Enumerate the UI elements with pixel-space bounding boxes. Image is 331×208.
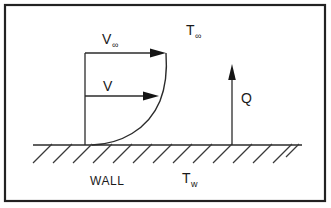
- velocity-profile-curve: [92, 53, 166, 145]
- local-velocity-vector: [85, 92, 159, 101]
- local-velocity-label: V: [103, 78, 113, 94]
- freestream-velocity-vector: [85, 49, 166, 58]
- freestream-velocity-subscript: ∞: [112, 40, 118, 50]
- heat-flux-label: Q: [241, 90, 252, 106]
- diagram-canvas: V ∞ T ∞ V Q WALL T w: [0, 0, 331, 208]
- heat-flux-vector: [228, 64, 236, 145]
- wall-temperature-label: T: [182, 170, 191, 186]
- figure-border: [5, 5, 325, 201]
- freestream-temperature-subscript: ∞: [195, 31, 201, 41]
- boundary-layer-figure: V ∞ T ∞ V Q WALL T w: [0, 0, 331, 208]
- freestream-velocity-label: V: [102, 31, 112, 47]
- wall-temperature-subscript: w: [190, 179, 198, 189]
- wall-label: WALL: [90, 174, 125, 188]
- wall-hatching: [33, 144, 299, 163]
- freestream-temperature-label: T: [186, 22, 195, 38]
